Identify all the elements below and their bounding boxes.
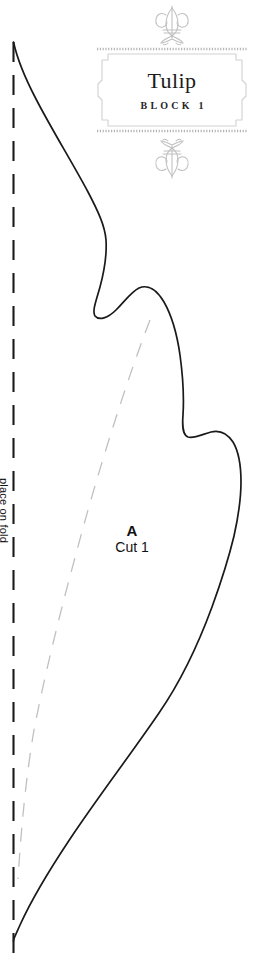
fleur-de-lis-ornament <box>144 2 200 48</box>
block-subtitle: BLOCK 1 <box>137 101 206 111</box>
place-on-fold-label: place on fold <box>0 478 10 543</box>
block-label: Tulip BLOCK 1 <box>92 0 252 186</box>
seam-guide-line <box>18 320 150 879</box>
cartouche-box: Tulip BLOCK 1 <box>94 46 250 134</box>
cartouche-text-group: Tulip BLOCK 1 <box>94 46 250 134</box>
fleur-de-lis-ornament-inverted <box>144 136 200 182</box>
pattern-sheet: Tulip BLOCK 1 A Cut 1 place on fo <box>0 0 256 975</box>
block-title: Tulip <box>148 70 197 92</box>
piece-letter: A <box>88 522 176 539</box>
piece-annotation: A Cut 1 <box>88 522 176 556</box>
piece-cut-instruction: Cut 1 <box>88 539 176 556</box>
